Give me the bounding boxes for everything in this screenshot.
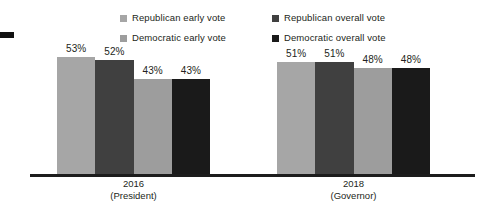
x-axis-label-2016-office: (President) (57, 190, 210, 202)
x-axis-label-2018: 2018 (Governor) (277, 178, 430, 201)
bar-value-label: 51% (286, 49, 306, 59)
bar-value-label: 53% (66, 44, 86, 54)
chart-plot-area: 53% 52% 43% 43% 2016 (President) 5 (0, 0, 503, 216)
bar-value-label: 51% (324, 49, 344, 59)
bar-republican-early-2016 (57, 57, 95, 174)
bar-republican-overall-2018 (315, 62, 353, 174)
bar-group-2018-bars: 51% 51% 48% 48% (277, 42, 430, 174)
x-axis-line (30, 174, 475, 177)
bar-democratic-overall-2018 (392, 68, 430, 174)
x-axis-label-2016-year: 2016 (57, 178, 210, 190)
bar-group-2016: 53% 52% 43% 43% 2016 (President) (57, 42, 210, 174)
bar-value-label: 52% (104, 47, 124, 57)
bar-democratic-overall-2016 (172, 79, 210, 174)
x-axis-label-2018-office: (Governor) (277, 190, 430, 202)
bar-slot: 48% (354, 42, 392, 174)
bar-group-2018: 51% 51% 48% 48% 2018 (Governor) (277, 42, 430, 174)
x-axis-label-2016: 2016 (President) (57, 178, 210, 201)
bar-value-label: 48% (401, 55, 421, 65)
bar-slot: 51% (315, 42, 353, 174)
bar-slot: 43% (134, 42, 172, 174)
bar-republican-early-2018 (277, 62, 315, 174)
bar-republican-overall-2016 (95, 60, 133, 174)
bar-slot: 53% (57, 42, 95, 174)
bar-slot: 51% (277, 42, 315, 174)
bar-value-label: 43% (143, 66, 163, 76)
x-axis-label-2018-year: 2018 (277, 178, 430, 190)
bar-value-label: 43% (181, 66, 201, 76)
bar-democratic-early-2016 (134, 79, 172, 174)
bar-slot: 43% (172, 42, 210, 174)
bar-group-2016-bars: 53% 52% 43% 43% (57, 42, 210, 174)
bar-slot: 52% (95, 42, 133, 174)
bar-democratic-early-2018 (354, 68, 392, 174)
bar-slot: 48% (392, 42, 430, 174)
bar-value-label: 48% (363, 55, 383, 65)
